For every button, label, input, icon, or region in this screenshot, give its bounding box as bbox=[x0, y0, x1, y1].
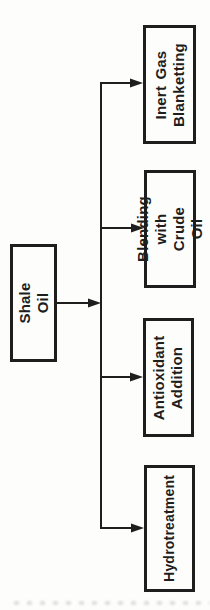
node-shale-oil: Shale Oil bbox=[10, 244, 57, 362]
node-inert-gas-blanketting-label: Inert Gas Blanketting bbox=[152, 43, 188, 127]
node-hydrotreatment: Hydrotreatment bbox=[144, 465, 195, 592]
node-shale-oil-label: Shale Oil bbox=[16, 282, 52, 323]
node-hydrotreatment-label: Hydrotreatment bbox=[161, 475, 178, 582]
node-inert-gas-blanketting: Inert Gas Blanketting bbox=[143, 25, 196, 144]
flowchart-canvas: Shale Oil Inert Gas Blanketting Blending… bbox=[0, 0, 210, 610]
node-antioxidant-addition: Antioxidant Addition bbox=[143, 318, 194, 437]
node-antioxidant-addition-label: Antioxidant Addition bbox=[151, 335, 187, 420]
arrowhead-hydrotreatment bbox=[131, 524, 144, 533]
arrowhead-trunk-junction bbox=[88, 299, 101, 308]
arrowhead-inert-gas bbox=[130, 79, 143, 88]
node-blending-with-crude-oil-label: Blending with Crude Oil bbox=[134, 196, 206, 262]
arrowhead-antioxidant bbox=[130, 373, 143, 382]
scan-artifact-smudge bbox=[14, 601, 210, 605]
node-blending-with-crude-oil: Blending with Crude Oil bbox=[144, 170, 196, 288]
